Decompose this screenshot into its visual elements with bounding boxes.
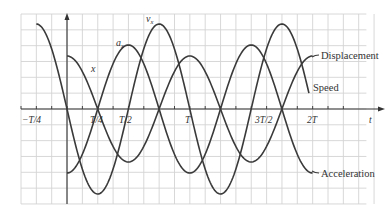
motion-graph: −T/4 T/4 T/2 T 3T/2 2T t x ax vx Displac… bbox=[0, 0, 390, 219]
acceleration-label: Acceleration bbox=[321, 168, 375, 179]
tick-label-neg-quarter: −T/4 bbox=[22, 115, 41, 125]
x-curve-label: x bbox=[90, 63, 96, 74]
tick-label-three-half: 3T/2 bbox=[254, 115, 273, 125]
tick-label-2T: 2T bbox=[307, 115, 318, 125]
v-curve-label: vx bbox=[146, 13, 153, 25]
x-axis-arrow-icon bbox=[378, 107, 385, 112]
displacement-label: Displacement bbox=[321, 50, 379, 61]
tick-label-T: T bbox=[185, 115, 191, 125]
v-label-sub: x bbox=[149, 18, 153, 25]
tick-label-quarter: T/4 bbox=[90, 115, 103, 125]
x-axis-label: t bbox=[369, 115, 372, 125]
tick-label-half: T/2 bbox=[119, 115, 132, 125]
a-label-sub: x bbox=[120, 42, 124, 49]
speed-label: Speed bbox=[313, 82, 339, 93]
a-curve-label: ax bbox=[116, 37, 124, 49]
